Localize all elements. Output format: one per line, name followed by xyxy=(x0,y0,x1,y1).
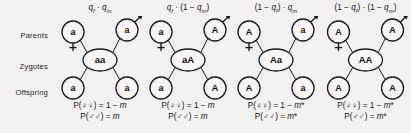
parent-male-allele: A xyxy=(212,25,219,35)
probability-male: P(♂♂) = m* xyxy=(231,111,321,122)
pedigree-graphic: AAAAAA xyxy=(320,16,411,100)
offspring-right-allele: A xyxy=(389,83,396,93)
row-label-parents: Parents xyxy=(20,31,48,40)
female-symbol xyxy=(335,43,342,51)
female-symbol xyxy=(157,43,164,51)
pedigree-graphic: aaaaaa xyxy=(55,16,145,100)
zygote-genotype: aA xyxy=(182,54,194,65)
offspring-right-allele: A xyxy=(212,83,219,93)
offspring-left-allele: A xyxy=(335,83,342,93)
offspring-left-allele: A xyxy=(246,83,253,93)
column-header: (1 − qf) · (1 − qm) xyxy=(320,3,411,14)
mating-column-1: qf · qmaaaaaaP(♀♀) = 1 − mP(♂♂) = m xyxy=(55,0,145,133)
column-header: qf · qm xyxy=(55,3,145,14)
mating-column-2: qf · (1 − qm)aAaAaAP(♀♀) = 1 − mP(♂♂) = … xyxy=(143,0,233,133)
male-symbol xyxy=(223,16,231,22)
female-symbol xyxy=(245,43,252,51)
probability-female: P(♀♀) = 1 − m* xyxy=(320,100,411,111)
row-label-offspring: Offspring xyxy=(16,88,48,97)
mating-column-4: (1 − qf) · (1 − qm)AAAAAAP(♀♀) = 1 − m*P… xyxy=(320,0,411,133)
probability-block: P(♀♀) = 1 − m*P(♂♂) = m* xyxy=(320,100,411,122)
probability-female: P(♀♀) = 1 − m xyxy=(55,100,145,111)
probability-male: P(♂♂) = m xyxy=(143,111,233,122)
female-symbol xyxy=(69,43,76,51)
male-symbol xyxy=(400,16,408,22)
zygote-genotype: AA xyxy=(359,54,373,65)
probability-female: P(♀♀) = 1 − m xyxy=(143,100,233,111)
probability-male: P(♂♂) = m xyxy=(55,111,145,122)
mating-column-3: (1 − qf) · qmAaAaAaP(♀♀) = 1 − m*P(♂♂) =… xyxy=(231,0,321,133)
row-label-zygotes: Zygotes xyxy=(20,62,48,71)
row-label-column: Parents Zygotes Offspring xyxy=(0,0,52,133)
column-header: qf · (1 − qm) xyxy=(143,3,233,14)
probability-female: P(♀♀) = 1 − m* xyxy=(231,100,321,111)
parent-female-allele: A xyxy=(335,27,342,37)
male-symbol xyxy=(311,16,319,22)
pedigree-graphic: AaAaAa xyxy=(231,16,321,100)
parent-female-allele: A xyxy=(246,27,253,37)
parent-male-allele: A xyxy=(389,25,396,35)
probability-male: P(♂♂) = m* xyxy=(320,111,411,122)
mating-type-diagram: Parents Zygotes Offspring qf · qmaaaaaaP… xyxy=(0,0,411,133)
column-header: (1 − qf) · qm xyxy=(231,3,321,14)
zygote-genotype: aa xyxy=(95,54,106,65)
male-symbol xyxy=(135,16,143,22)
zygote-genotype: Aa xyxy=(270,54,283,65)
probability-block: P(♀♀) = 1 − mP(♂♂) = m xyxy=(55,100,145,122)
probability-block: P(♀♀) = 1 − m*P(♂♂) = m* xyxy=(231,100,321,122)
pedigree-graphic: aAaAaA xyxy=(143,16,233,100)
probability-block: P(♀♀) = 1 − mP(♂♂) = m xyxy=(143,100,233,122)
